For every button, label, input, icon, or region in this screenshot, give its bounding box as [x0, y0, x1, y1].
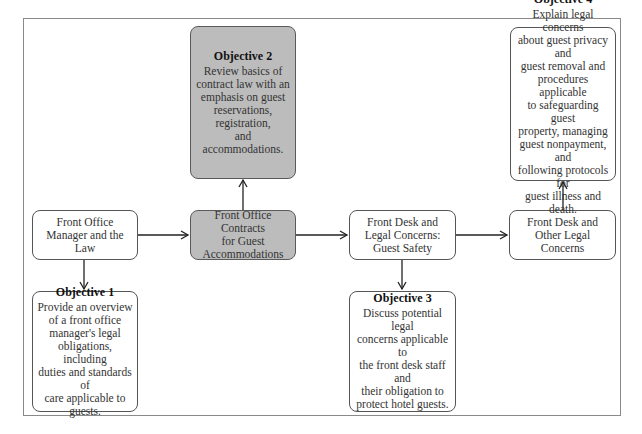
node-label: Front Office Manager and the Law — [36, 216, 134, 255]
node-contracts-for-guest-accommodations: Front Office Contracts for Guest Accommo… — [190, 210, 296, 260]
objective-4-box: Objective 4 Explain legal concerns about… — [510, 27, 616, 181]
objective-text: Discuss potential legal concerns applica… — [353, 307, 452, 411]
objective-title: Objective 3 — [373, 292, 431, 305]
objective-2-box: Objective 2 Review basics of contract la… — [190, 26, 296, 179]
objective-3-box: Objective 3 Discuss potential legal conc… — [349, 291, 456, 412]
objective-title: Objective 4 — [534, 0, 592, 6]
node-manager-and-the-law: Front Office Manager and the Law — [32, 210, 138, 260]
objective-text: Explain legal concerns about guest priva… — [514, 8, 612, 216]
objective-1-box: Objective 1 Provide an overview of a fro… — [32, 291, 138, 412]
node-label: Front Office Contracts for Guest Accommo… — [194, 209, 292, 261]
node-label: Front Desk and Other Legal Concerns — [513, 216, 612, 255]
node-legal-concerns-guest-safety: Front Desk and Legal Concerns: Guest Saf… — [349, 210, 456, 260]
objective-title: Objective 1 — [56, 286, 114, 299]
node-other-legal-concerns: Front Desk and Other Legal Concerns — [509, 210, 616, 260]
node-label: Front Desk and Legal Concerns: Guest Saf… — [365, 216, 441, 255]
objective-text: Provide an overview of a front office ma… — [36, 301, 134, 418]
objective-text: Review basics of contract law with an em… — [194, 65, 292, 156]
objective-title: Objective 2 — [214, 50, 272, 63]
